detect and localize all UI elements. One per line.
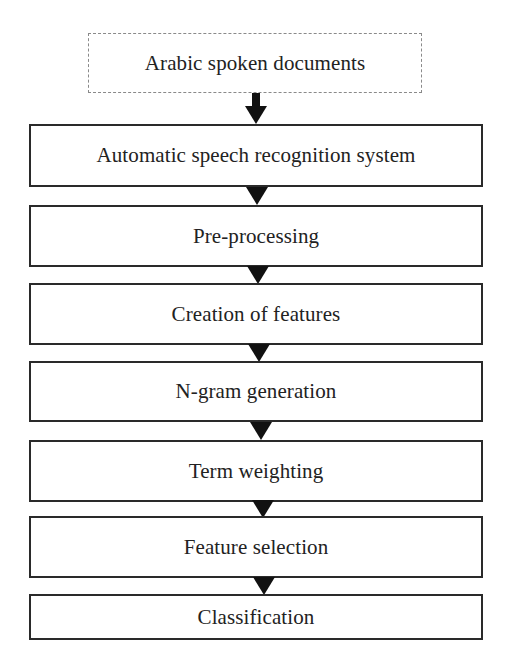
step-classification: Classification [29, 594, 483, 640]
step-term-weighting: Term weighting [29, 440, 483, 502]
arrow-down-icon [246, 187, 268, 205]
step-pre-processing: Pre-processing [29, 205, 483, 267]
node-label: Pre-processing [193, 224, 319, 249]
step-n-gram-generation: N-gram generation [29, 361, 483, 422]
step-creation-of-features: Creation of features [29, 283, 483, 345]
arrow-down-icon [248, 344, 270, 362]
node-label: Automatic speech recognition system [96, 143, 415, 168]
node-label: Arabic spoken documents [145, 51, 365, 76]
node-label: N-gram generation [176, 379, 337, 404]
arrow-stem [252, 93, 260, 107]
input-node-arabic-spoken-documents: Arabic spoken documents [88, 33, 422, 93]
arrow-down-icon [245, 106, 267, 124]
node-label: Feature selection [184, 535, 329, 560]
arrow-down-icon [247, 266, 269, 284]
node-label: Creation of features [172, 302, 341, 327]
step-automatic-speech-recognition: Automatic speech recognition system [29, 124, 483, 187]
node-label: Term weighting [189, 459, 324, 484]
step-feature-selection: Feature selection [29, 516, 483, 578]
arrow-down-icon [250, 422, 272, 440]
arrow-down-icon [253, 577, 275, 595]
node-label: Classification [198, 605, 315, 630]
